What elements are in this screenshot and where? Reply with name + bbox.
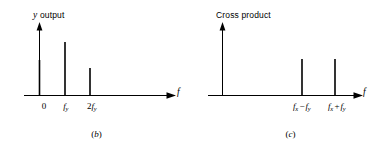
tick-diff-sub2: y: [308, 105, 311, 112]
caption-c-close: ): [293, 129, 296, 139]
tick-diff-sub1: x: [295, 105, 298, 112]
tick-sum-sub1: x: [330, 105, 333, 112]
caption-b-close: ): [99, 129, 102, 139]
tick-label-difference: fx−fy: [293, 101, 311, 112]
x-axis-label-b: f: [177, 87, 180, 97]
tick-0-number: 0: [42, 101, 47, 111]
panel-b: y output 0 fy 2fy f (b): [0, 0, 193, 155]
x-axis-arrowhead-b: [167, 92, 177, 99]
figure-container: y output 0 fy 2fy f (b) Cross product: [0, 0, 387, 155]
y-axis-arrowhead-b: [37, 22, 43, 31]
tick-label-sum: fx+fy: [328, 101, 346, 112]
y-axis-arrowhead-c: [220, 22, 226, 31]
panel-caption-c: (c): [194, 129, 387, 140]
tick-label-fy: fy: [63, 101, 68, 112]
x-axis-label-c: f: [363, 87, 366, 97]
tick-2fy-subscript: y: [94, 105, 97, 112]
panel-caption-b: (b): [0, 129, 193, 140]
tick-sum-sub2: y: [343, 105, 346, 112]
panel-c: Cross product fx−fy fx+fy f (c): [194, 0, 387, 155]
tick-fy-subscript: y: [66, 105, 69, 112]
tick-label-0: 0: [42, 101, 47, 111]
x-axis-arrowhead-c: [354, 92, 364, 99]
tick-label-2fy: 2fy: [87, 101, 97, 112]
